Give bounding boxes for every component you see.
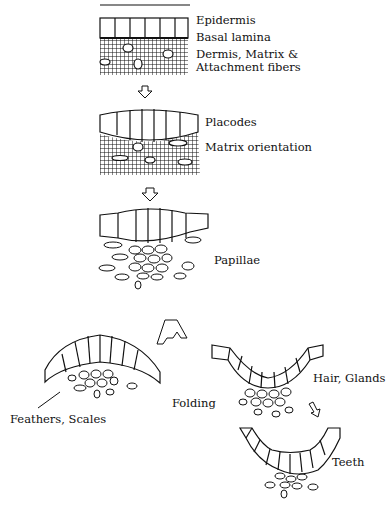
label-hair-glands: Hair, Glands <box>313 372 386 385</box>
stage-placodes <box>100 109 200 175</box>
stage-flat-epidermis <box>100 5 190 75</box>
label-papillae: Papillae <box>214 254 260 267</box>
arrow-down-icon <box>142 188 158 201</box>
label-folding: Folding <box>172 397 216 410</box>
label-teeth: Teeth <box>332 456 364 469</box>
label-feathers-scales: Feathers, Scales <box>10 413 106 426</box>
label-epidermis: Epidermis <box>196 14 256 27</box>
stage-inward-fold-hair <box>212 345 323 417</box>
label-dermis-line2: Attachment fibers <box>196 61 301 74</box>
stage-inward-fold-teeth <box>240 428 340 498</box>
arrow-down-right-icon <box>309 402 320 417</box>
split-arrow-icon <box>157 320 187 344</box>
diagram-canvas <box>0 0 390 512</box>
stage-outward-fold <box>38 335 160 408</box>
label-matrix-orientation: Matrix orientation <box>205 141 312 154</box>
arrow-down-icon <box>138 86 152 98</box>
label-basal-lamina: Basal lamina <box>196 31 271 44</box>
stage-papillae <box>99 208 208 289</box>
label-placodes: Placodes <box>205 116 257 129</box>
